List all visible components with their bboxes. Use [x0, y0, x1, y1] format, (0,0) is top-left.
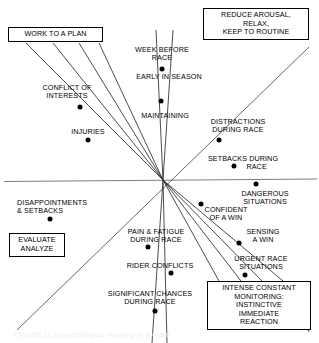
label-week-before-race: WEEK BEFORE RACE [135, 46, 189, 63]
box-intense-constant-monitoring: INTENSE CONSTANT MONITORING: INSTINCTIVE… [207, 281, 311, 330]
label-significant-chances-during-race: SIGNIFICANT CHANCES DURING RACE [108, 290, 192, 307]
box-reduce-arousal: REDUCE AROUSAL, RELAX, KEEP TO ROUTINE [203, 8, 309, 40]
label-urgent-race-situations: URGENT RACE SITUATIONS [234, 255, 287, 272]
figure-container: WORK TO A PLAN REDUCE AROUSAL, RELAX, KE… [0, 0, 319, 343]
label-dangerous-situations: DANGEROUS SITUATIONS [241, 190, 288, 207]
label-pain-fatigue-during-race: PAIN & FATIGUE DURING RACE [128, 228, 185, 245]
label-early-in-season: EARLY IN SEASON [136, 73, 202, 81]
label-injuries: INJURIES [71, 128, 105, 136]
box-evaluate-analyze: EVALUATE ANALYZE [9, 233, 65, 257]
label-confident-of-a-win: CONFIDENT OF A WIN [205, 206, 248, 223]
label-distractions-during-race: DISTRACTIONS DURING RACE [211, 118, 266, 135]
box-work-to-a-plan: WORK TO A PLAN [8, 27, 103, 42]
label-setbacks-during-race: SETBACKS DURING RACE [208, 155, 278, 172]
label-sensing-a-win: SENSING A WIN [246, 228, 279, 245]
label-conflict-of-interests: CONFLICT OF INTERESTS [43, 84, 92, 101]
axis-horizontal [4, 179, 317, 182]
figure-caption: FIGURE 11 A psychological mapping of aro… [14, 331, 170, 338]
label-rider-conflicts: RIDER CONFLICTS [127, 262, 194, 270]
label-disappointments-setbacks: DISAPPOINTMENTS & SETBACKS [17, 199, 87, 216]
label-maintaining: MAINTAINING [141, 112, 189, 120]
